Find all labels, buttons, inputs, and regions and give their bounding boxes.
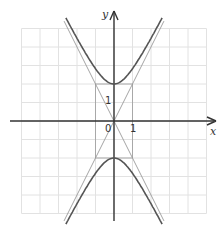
axes — [10, 11, 216, 221]
x-axis-label: x — [210, 126, 216, 137]
hyperbola-figure — [0, 0, 222, 232]
y-axis-label: y — [102, 9, 108, 20]
origin-label: 0 — [105, 124, 111, 134]
x-tick-label: 1 — [130, 124, 136, 134]
y-tick-label: 1 — [105, 96, 111, 106]
